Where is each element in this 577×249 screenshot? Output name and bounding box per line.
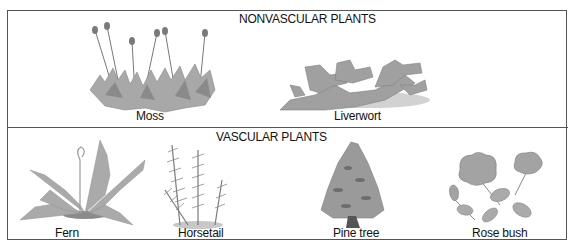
horsetail-icon <box>160 140 240 230</box>
fern-icon <box>15 135 155 227</box>
section-divider <box>7 127 568 128</box>
rose-bush-label: Rose bush <box>472 226 528 240</box>
rose-bush-icon <box>440 150 555 230</box>
liverwort-label: Liverwort <box>334 109 381 123</box>
moss-icon <box>85 20 220 115</box>
horsetail-label: Horsetail <box>178 226 224 240</box>
nonvascular-title: NONVASCULAR PLANTS <box>239 12 376 26</box>
liverwort-icon <box>275 55 440 115</box>
moss-label: Moss <box>136 109 164 123</box>
pine-tree-label: Pine tree <box>333 226 379 240</box>
pine-tree-icon <box>318 138 388 230</box>
fern-label: Fern <box>55 226 79 240</box>
